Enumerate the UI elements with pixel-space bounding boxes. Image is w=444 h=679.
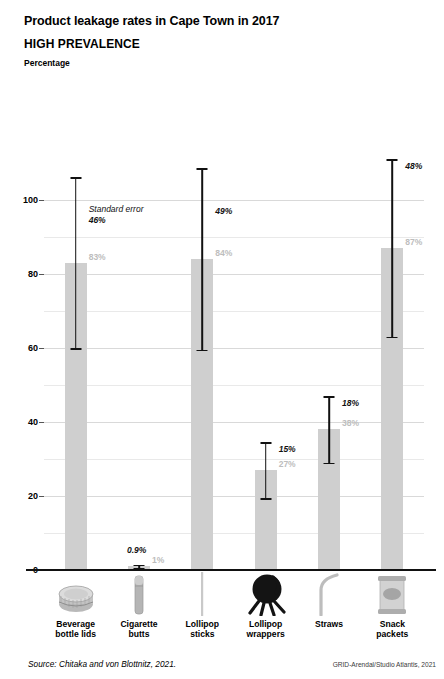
- gridline-major: [44, 274, 424, 275]
- chart-page: Product leakage rates in Cape Town in 20…: [0, 0, 444, 679]
- snack-packet-icon: [349, 572, 435, 616]
- gridline-minor: [44, 533, 424, 534]
- bar-value-label: 84%: [215, 248, 232, 258]
- error-bar-stem: [75, 177, 77, 347]
- y-axis-tick-label: 40: [28, 417, 38, 427]
- y-axis-tick-mark: [39, 274, 44, 275]
- gridline-major: [44, 348, 424, 349]
- y-axis-tick-mark: [39, 496, 44, 497]
- error-bar-value-label: 49%: [215, 206, 232, 216]
- gridline-minor: [44, 459, 424, 460]
- error-bar-stem: [265, 442, 267, 498]
- y-axis-tick-mark: [39, 422, 44, 423]
- y-axis-tick-label: 60: [28, 343, 38, 353]
- error-bar-cap-bottom: [324, 463, 335, 465]
- error-bar-cap-top: [134, 565, 145, 567]
- bar-value-label: 27%: [279, 459, 296, 469]
- credit-note: GRID-Arendal/Studio Atlantis, 2021: [333, 661, 436, 668]
- error-bar-cap-bottom: [197, 350, 208, 352]
- error-bar-cap-top: [324, 396, 335, 398]
- gridline-major: [44, 200, 424, 201]
- bar-value-label: 1%: [152, 555, 164, 565]
- gridline-major: [44, 496, 424, 497]
- y-axis-title: Percentage: [24, 58, 70, 68]
- y-axis-tick-label: 80: [28, 269, 38, 279]
- gridline-minor: [44, 237, 424, 238]
- error-bar-cap-top: [387, 159, 398, 161]
- error-bar-value-label: 46%: [89, 215, 106, 225]
- bar-value-label: 83%: [89, 252, 106, 262]
- error-bar-value-label: 15%: [279, 444, 296, 454]
- gridline-minor: [44, 311, 424, 312]
- category-axis: Beveragebottle lids Cigarettebutts Lolli…: [44, 572, 424, 652]
- error-bar-stem: [328, 396, 330, 463]
- y-axis-tick-label: 20: [28, 491, 38, 501]
- error-bar-stem: [392, 159, 394, 337]
- error-bar-value-label: 18%: [342, 398, 359, 408]
- y-axis-tick-mark: [39, 200, 44, 201]
- error-bar-cap-top: [260, 442, 271, 444]
- gridline-minor: [44, 385, 424, 386]
- category-label: Snackpackets: [349, 619, 435, 640]
- y-axis-tick-mark: [39, 348, 44, 349]
- error-bar-cap-bottom: [260, 498, 271, 500]
- error-bar-cap-top: [70, 177, 81, 179]
- error-bar-stem: [202, 168, 204, 349]
- error-bar-cap-bottom: [70, 348, 81, 350]
- source-note: Source: Chitaka and von Blottnitz, 2021.: [28, 659, 176, 669]
- chart-subtitle: HIGH PREVALENCE: [24, 37, 140, 51]
- error-bar-cap-top: [197, 168, 208, 170]
- plot-area: 02040608010083%1%84%27%38%87%46%0.9%49%1…: [44, 70, 424, 570]
- standard-error-annotation: Standard error: [89, 204, 144, 215]
- error-bar-value-label: 0.9%: [127, 545, 146, 555]
- error-bar-cap-bottom: [387, 337, 398, 339]
- gridline-major: [44, 422, 424, 423]
- error-bar-value-label: 48%: [405, 161, 422, 171]
- bar-value-label: 38%: [342, 418, 359, 428]
- category-snack-packets: Snackpackets: [349, 572, 435, 640]
- page-title: Product leakage rates in Cape Town in 20…: [24, 14, 279, 28]
- bar-value-label: 87%: [405, 237, 422, 247]
- y-axis-tick-label: 100: [23, 195, 38, 205]
